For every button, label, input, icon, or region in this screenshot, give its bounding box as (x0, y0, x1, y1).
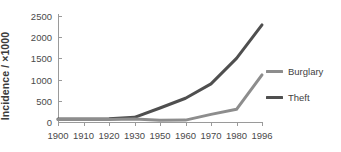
x-tick-label: 1996 (251, 130, 272, 141)
series-line-burglary (58, 75, 262, 120)
x-tick-label: 1900 (47, 130, 68, 141)
legend-label-burglary: Burglary (288, 66, 323, 77)
y-tick-mark (58, 37, 62, 38)
x-tick-label: 1910 (73, 130, 94, 141)
x-tick-mark (135, 122, 136, 126)
x-tick-label: 1950 (149, 130, 170, 141)
x-tick-label: 1960 (175, 130, 196, 141)
x-tick-label: 1920 (98, 130, 119, 141)
x-tick-label: 1980 (226, 130, 247, 141)
legend-swatch-theft (266, 96, 283, 99)
legend: Burglary Theft (266, 58, 341, 110)
y-tick-mark (58, 58, 62, 59)
x-tick-mark (160, 122, 161, 126)
y-tick-mark (58, 16, 62, 17)
legend-item-burglary[interactable]: Burglary (266, 58, 341, 84)
y-tick-mark (58, 101, 62, 102)
x-tick-mark (237, 122, 238, 126)
legend-label-theft: Theft (288, 92, 310, 103)
legend-swatch-burglary (266, 70, 283, 73)
x-tick-mark (109, 122, 110, 126)
series-line-theft (58, 25, 262, 119)
x-tick-mark (262, 122, 263, 126)
x-tick-mark (58, 122, 59, 126)
x-tick-mark (84, 122, 85, 126)
x-tick-mark (186, 122, 187, 126)
x-tick-mark (211, 122, 212, 126)
x-tick-label: 1930 (124, 130, 145, 141)
line-chart: Incidence / ×1000 05001000150020002500 B… (0, 0, 341, 152)
y-tick-mark (58, 80, 62, 81)
x-tick-label: 1970 (200, 130, 221, 141)
legend-item-theft[interactable]: Theft (266, 84, 341, 110)
